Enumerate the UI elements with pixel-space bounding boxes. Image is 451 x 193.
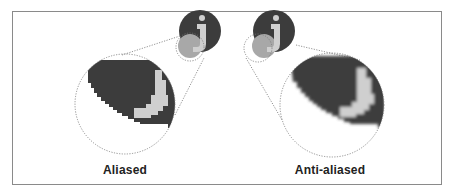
anti-aliased-magnified-view bbox=[290, 56, 385, 128]
aliasing-diagram bbox=[0, 0, 451, 193]
aliased-label: Aliased bbox=[103, 163, 147, 177]
anti-aliased-label: Anti-aliased bbox=[295, 163, 365, 177]
